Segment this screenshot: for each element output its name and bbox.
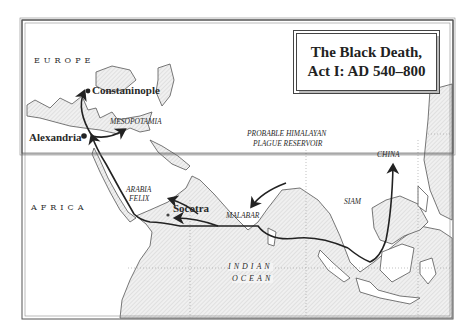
label-arabia: ARABIA xyxy=(126,186,151,194)
socotra-dot xyxy=(166,213,169,216)
label-africa: AFRICA xyxy=(31,204,87,212)
label-europe: EUROPE xyxy=(34,57,94,65)
map-title-box: The Black Death, Act I: AD 540–800 xyxy=(296,33,437,91)
label-mesopotamia: MESOPOTAMIA xyxy=(110,118,162,126)
map-title-line1: The Black Death, xyxy=(311,43,422,62)
label-reservoir-line2: PLAGUE RESERVOIR xyxy=(253,140,322,148)
map-title-line2: Act I: AD 540–800 xyxy=(308,62,426,81)
label-felix: FELIX xyxy=(129,195,149,203)
label-ocean: OCEAN xyxy=(232,275,273,283)
label-malabar: MALABAR xyxy=(226,212,259,220)
constantinople-dot xyxy=(86,89,91,94)
alexandria-dot xyxy=(81,133,87,139)
label-china: CHINA xyxy=(377,151,400,159)
label-constantinople: Constaninople xyxy=(92,85,160,96)
label-indian: INDIAN xyxy=(228,263,273,271)
label-siam: SIAM xyxy=(344,198,361,206)
label-socotra: Socotra xyxy=(173,203,209,214)
label-alexandria: Alexandria xyxy=(29,132,82,143)
label-reservoir-line1: PROBABLE HIMALAYAN xyxy=(247,130,326,138)
